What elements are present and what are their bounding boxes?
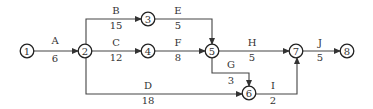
activity-arrow bbox=[155, 19, 212, 44]
event-node-2: 2 bbox=[78, 44, 92, 58]
activity-duration-label: 18 bbox=[142, 95, 155, 106]
activity-a: A6 bbox=[33, 35, 78, 64]
activity-d: D18 bbox=[86, 57, 242, 106]
activity-j: J5 bbox=[303, 37, 340, 63]
event-node-5: 5 bbox=[205, 44, 219, 58]
activity-duration-label: 5 bbox=[317, 52, 323, 63]
activity-duration-label: 6 bbox=[52, 53, 58, 64]
activity-name-label: J bbox=[317, 37, 322, 48]
activity-i: I2 bbox=[256, 58, 297, 106]
activity-arrow bbox=[256, 58, 297, 94]
activity-duration-label: 2 bbox=[270, 95, 276, 106]
event-node-8: 8 bbox=[340, 44, 354, 58]
node-number-label: 7 bbox=[293, 46, 299, 57]
activity-name-label: B bbox=[112, 5, 119, 16]
event-node-7: 7 bbox=[289, 44, 303, 58]
activity-name-label: H bbox=[248, 37, 257, 48]
node-number-label: 8 bbox=[344, 46, 350, 57]
activity-duration-label: 5 bbox=[175, 20, 181, 31]
network-diagram: A6B15C12D18E5F8G3H5I2J5 12345678 bbox=[0, 0, 373, 109]
activity-name-label: E bbox=[174, 5, 181, 16]
node-number-label: 1 bbox=[24, 46, 30, 57]
event-node-6: 6 bbox=[242, 86, 256, 100]
activity-e: E5 bbox=[155, 5, 212, 44]
activity-duration-label: 8 bbox=[175, 52, 181, 63]
node-number-label: 2 bbox=[82, 46, 88, 57]
node-number-label: 6 bbox=[246, 88, 252, 99]
activity-name-label: G bbox=[227, 59, 235, 70]
activity-duration-label: 3 bbox=[228, 75, 234, 86]
event-node-1: 1 bbox=[20, 44, 34, 58]
activity-name-label: F bbox=[175, 37, 182, 48]
activity-name-label: C bbox=[112, 37, 120, 48]
activity-c: C12 bbox=[91, 37, 141, 63]
activity-duration-label: 15 bbox=[110, 20, 123, 31]
nodes-layer: 12345678 bbox=[20, 12, 354, 100]
activity-g: G3 bbox=[212, 58, 249, 86]
event-node-4: 4 bbox=[141, 44, 155, 58]
node-number-label: 5 bbox=[209, 46, 215, 57]
activity-name-label: A bbox=[50, 35, 59, 46]
node-number-label: 3 bbox=[145, 14, 151, 25]
activity-duration-label: 5 bbox=[249, 52, 255, 63]
event-node-3: 3 bbox=[141, 12, 155, 26]
activity-name-label: D bbox=[144, 80, 152, 91]
activity-name-label: I bbox=[271, 80, 275, 91]
activity-duration-label: 12 bbox=[110, 52, 123, 63]
network-diagram-canvas: A6B15C12D18E5F8G3H5I2J5 12345678 bbox=[0, 0, 373, 109]
node-number-label: 4 bbox=[145, 46, 151, 57]
activity-f: F8 bbox=[155, 37, 205, 63]
